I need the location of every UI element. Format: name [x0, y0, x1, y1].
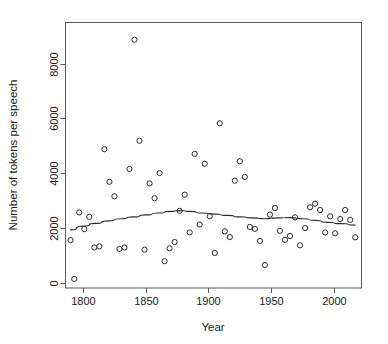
chart-canvas: 18001850190019502000 02000400060008000 Y…: [0, 0, 388, 344]
y-tick-label: 4000: [48, 161, 60, 185]
x-tick-label: 1800: [71, 295, 95, 307]
y-tick-label: 0: [48, 280, 60, 286]
x-tick-label: 2000: [322, 295, 346, 307]
x-tick-label: 1900: [196, 295, 220, 307]
y-tick-label: 6000: [48, 106, 60, 130]
y-tick-label: 8000: [48, 52, 60, 76]
x-tick-label: 1850: [134, 295, 158, 307]
scatter-plot-figure: 18001850190019502000 02000400060008000 Y…: [0, 0, 388, 344]
x-axis-title: Year: [201, 321, 224, 333]
y-axis-title: Number of tokens per speech: [7, 80, 19, 231]
y-tick-label: 2000: [48, 216, 60, 240]
x-tick-label: 1950: [259, 295, 283, 307]
